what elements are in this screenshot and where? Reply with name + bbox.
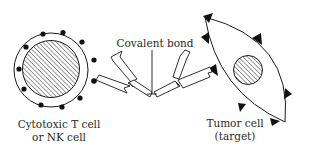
- surface-triangle-icon: [238, 103, 246, 112]
- surface-dot-icon: [91, 78, 97, 84]
- antibody-left: [96, 51, 152, 97]
- target-cell: [201, 13, 292, 126]
- diagram-canvas: Covalent bond Cytotoxic T cell or NK cel…: [0, 0, 313, 151]
- antibody-right: [154, 50, 212, 97]
- surface-dot-icon: [60, 30, 65, 35]
- antibody-right-fab-lower: [178, 67, 212, 88]
- antibody-right-fc: [154, 81, 180, 97]
- surface-dot-icon: [91, 57, 96, 62]
- effector-cell-nucleus: [23, 41, 80, 98]
- surface-dot-icon: [77, 95, 82, 100]
- antibody-right-fab-upper: [173, 50, 190, 79]
- surface-dot-icon: [23, 44, 28, 49]
- target-cell-label-line1: Tumor cell: [206, 117, 264, 129]
- covalent-bond: [147, 50, 157, 94]
- surface-dot-icon: [21, 86, 26, 91]
- surface-dot-icon: [40, 31, 45, 36]
- surface-dot-icon: [16, 66, 21, 71]
- effector-cell: [14, 30, 97, 110]
- antibody-left-fab-lower: [96, 75, 130, 93]
- effector-cell-label-line1: Cytotoxic T cell: [18, 118, 101, 130]
- surface-triangle-icon: [284, 88, 292, 99]
- effector-cell-label-line2: or NK cell: [32, 131, 87, 143]
- antibody-left-fab-upper: [111, 51, 137, 82]
- surface-triangle-icon: [201, 32, 209, 44]
- surface-dot-icon: [38, 102, 43, 107]
- target-cell-nucleus: [234, 56, 263, 85]
- surface-dot-icon: [59, 104, 64, 109]
- surface-dot-icon: [79, 39, 84, 44]
- covalent-bond-label: Covalent bond: [117, 37, 194, 49]
- target-cell-label-line2: (target): [215, 130, 256, 142]
